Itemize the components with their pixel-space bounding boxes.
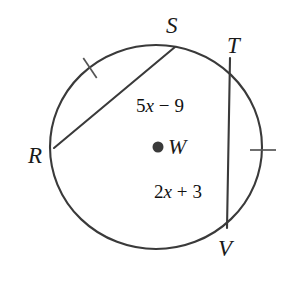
- chord-rs-coefficient: 5: [136, 95, 146, 116]
- chord-tv-constant: 3: [193, 181, 203, 202]
- vertex-label-t: T: [227, 33, 242, 58]
- chord-rs-variable: x: [144, 95, 154, 116]
- center-point-dot-icon: [153, 142, 164, 153]
- figure-background: [0, 0, 291, 285]
- chord-rs-operator: −: [159, 95, 170, 116]
- chord-tv-variable: x: [162, 181, 172, 202]
- chord-tv-measure-label: 2x+3: [154, 181, 202, 202]
- vertex-label-r: R: [27, 143, 42, 168]
- chord-tv-operator: +: [177, 181, 188, 202]
- geometry-figure-circle-w: W S T R V 5x−9 2x+3: [0, 0, 291, 285]
- center-label-w: W: [168, 134, 188, 159]
- chord-tv-coefficient: 2: [154, 181, 164, 202]
- chord-rs-measure-label: 5x−9: [136, 95, 184, 116]
- chord-rs-constant: 9: [175, 95, 185, 116]
- vertex-label-s: S: [166, 13, 178, 38]
